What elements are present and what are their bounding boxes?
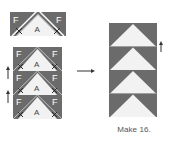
svg-text:F: F [52,97,58,107]
svg-text:F: F [16,97,22,107]
press-arrow-up-icon [6,66,10,79]
svg-text:A: A [34,84,40,93]
label-f-right: F [56,15,62,25]
svg-text:F: F [16,49,22,59]
step2-stack: F F A F F A F F A [6,47,62,119]
stack-unit-3: F F A [13,95,62,119]
flying-geese-row-2 [109,47,157,71]
svg-text:A: A [34,60,40,69]
stack-unit-2: F F A [13,71,62,95]
stack-unit-1: F F A [13,47,62,71]
caption: Make 16. [108,125,160,134]
svg-text:F: F [52,73,58,83]
label-a: A [35,25,41,34]
arrow-right-icon [77,69,95,73]
flying-geese-row-4 [109,94,157,118]
label-f-left: F [13,15,19,25]
assembly-diagram: F F A F F A F F A [0,0,171,142]
svg-text:F: F [52,49,58,59]
press-arrow-up-icon [6,90,10,103]
flying-geese-row-1 [109,23,157,47]
result-block [109,23,163,117]
svg-text:F: F [16,73,22,83]
svg-text:A: A [34,108,40,117]
flying-geese-row-3 [109,70,157,94]
press-arrow-up-icon [159,41,163,52]
step1-unit: F F A [10,10,66,36]
